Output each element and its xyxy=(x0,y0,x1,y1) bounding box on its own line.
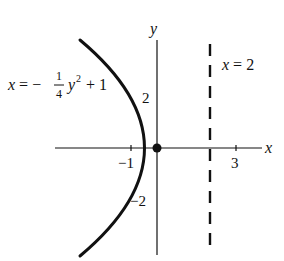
equation-eq-minus: = − xyxy=(15,76,41,93)
x-axis-label: x xyxy=(264,139,272,156)
equation-var: y xyxy=(66,76,76,94)
dashed-line-label: x = 2 xyxy=(221,56,254,73)
x-tick-label-minus-1: −1 xyxy=(118,155,134,171)
equation-tail: + 1 xyxy=(82,76,107,93)
equation-frac-den: 4 xyxy=(56,87,62,101)
equation-frac-num: 1 xyxy=(56,69,62,83)
x-tick-label-3: 3 xyxy=(231,155,239,171)
y-axis-label: y xyxy=(148,20,158,38)
y-tick-label-2: 2 xyxy=(142,90,150,106)
svg-text:x = −: x = − xyxy=(7,76,41,93)
equation-exp: 2 xyxy=(76,73,81,84)
parabola-diagram: x y −1 3 2 −2 x = 2 x = − 1 4 y 2 + 1 xyxy=(0,0,284,261)
origin-point xyxy=(153,144,162,153)
equation-label: x = − 1 4 y 2 + 1 xyxy=(7,69,107,101)
